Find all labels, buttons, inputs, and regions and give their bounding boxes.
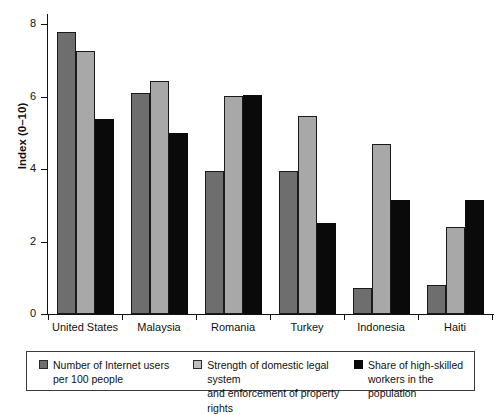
x-tick-mark	[492, 314, 493, 320]
y-tick-mark	[41, 242, 47, 243]
x-tick-mark	[122, 314, 123, 320]
black-swatch-icon	[354, 360, 363, 369]
x-category-label: Turkey	[270, 321, 344, 333]
bar	[243, 95, 262, 314]
bar	[150, 81, 169, 314]
bar	[169, 133, 188, 314]
y-tick-mark	[41, 169, 47, 170]
legend-line-1: Number of Internet users	[53, 358, 169, 372]
plot-area	[48, 18, 492, 314]
bar	[131, 93, 150, 314]
bar	[57, 32, 76, 314]
x-tick-mark	[418, 314, 419, 320]
bar	[95, 119, 114, 314]
bar	[391, 200, 410, 314]
legend-line-2: per 100 people	[53, 372, 169, 386]
y-tick-label: 0	[14, 308, 36, 319]
x-tick-mark	[344, 314, 345, 320]
bar-chart: Index (0–10) 02468 United StatesMalaysia…	[0, 0, 501, 340]
legend-line-2: and enforcement of property rights	[207, 386, 354, 414]
x-tick-mark	[270, 314, 271, 320]
chart-legend: Number of Internet users per 100 people …	[26, 351, 475, 391]
y-tick-mark	[41, 24, 47, 25]
bar	[76, 51, 95, 314]
legend-item-label: Number of Internet users per 100 people	[53, 358, 169, 386]
legend-item-internet-users: Number of Internet users per 100 people	[27, 358, 193, 386]
legend-item-label: Strength of domestic legal system and en…	[207, 358, 354, 415]
y-tick-mark	[41, 314, 47, 315]
bar	[372, 144, 391, 314]
x-tick-mark	[196, 314, 197, 320]
bar	[427, 285, 446, 314]
bar	[205, 171, 224, 314]
x-axis-line	[44, 314, 494, 315]
legend-line-1: Share of high-skilled	[368, 358, 474, 372]
x-category-label: Malaysia	[122, 321, 196, 333]
bar	[317, 223, 336, 314]
y-tick-mark	[41, 97, 47, 98]
y-tick-label: 4	[14, 163, 36, 174]
legend-item-label: Share of high-skilled workers in the pop…	[368, 358, 474, 401]
bar	[465, 200, 484, 314]
x-category-label: Indonesia	[344, 321, 418, 333]
legend-item-legal-system: Strength of domestic legal system and en…	[193, 358, 354, 415]
y-axis-title: Index (0–10)	[16, 66, 28, 206]
bar	[224, 96, 243, 314]
bar	[446, 227, 465, 314]
x-category-label: United States	[48, 321, 122, 333]
bar	[279, 171, 298, 314]
x-category-label: Romania	[196, 321, 270, 333]
bar	[298, 116, 317, 314]
x-tick-mark	[48, 314, 49, 320]
y-tick-label: 2	[14, 236, 36, 247]
y-tick-label: 8	[14, 18, 36, 29]
y-tick-label: 6	[14, 91, 36, 102]
dark-gray-swatch-icon	[39, 360, 48, 369]
x-category-label: Haiti	[418, 321, 492, 333]
legend-line-2: workers in the population	[368, 372, 474, 400]
light-gray-swatch-icon	[193, 360, 202, 369]
legend-line-1: Strength of domestic legal system	[207, 358, 354, 386]
bar	[353, 288, 372, 314]
legend-item-high-skilled-workers: Share of high-skilled workers in the pop…	[354, 358, 474, 401]
